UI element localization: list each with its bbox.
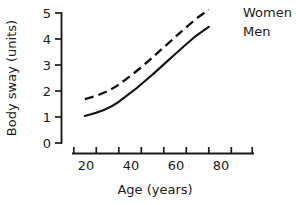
x-axis-title: Age (years): [117, 182, 192, 197]
y-tick-label-3: 3: [43, 58, 51, 73]
series-label-women: Women: [243, 5, 292, 20]
x-tick-label-80: 80: [213, 158, 230, 173]
y-tick-label-2: 2: [43, 84, 51, 99]
y-tick-label-4: 4: [43, 32, 51, 47]
y-axis-title: Body sway (units): [4, 20, 19, 136]
chart-canvas: 5 4 3 2 1 0 Body sway (units) 20 40 60 8…: [0, 0, 296, 205]
x-tick-label-20: 20: [78, 158, 95, 173]
series-line-women: [85, 10, 209, 99]
series-label-men: Men: [243, 24, 270, 39]
y-tick-label-5: 5: [43, 6, 51, 21]
x-tick-label-60: 60: [168, 158, 185, 173]
chart-figure: 5 4 3 2 1 0 Body sway (units) 20 40 60 8…: [0, 0, 296, 205]
x-tick-label-40: 40: [123, 158, 140, 173]
y-tick-label-0: 0: [43, 136, 51, 151]
series-line-men: [85, 27, 209, 116]
y-tick-label-1: 1: [43, 110, 51, 125]
